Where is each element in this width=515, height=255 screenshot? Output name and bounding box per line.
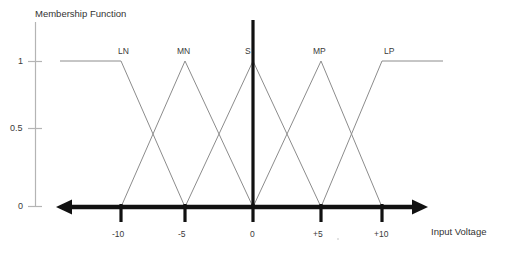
set-label-mn: MN [177, 47, 190, 56]
x-tick-label-plus-ten: +10 [374, 230, 388, 239]
x-tick-label-minus-five: -5 [178, 230, 186, 239]
x-tick-label-plus-five: +5 [313, 230, 323, 239]
x-axis-right-arrowhead [412, 200, 428, 215]
set-label-lp: LP [384, 47, 394, 56]
set-label-s: S [245, 47, 251, 56]
curve-mn [121, 61, 253, 207]
x-tick-label-minus-ten: -10 [112, 230, 124, 239]
scan-speck [337, 238, 339, 240]
x-axis-left-arrowhead [56, 200, 72, 215]
y-tick-label-zero: 0 [18, 202, 23, 211]
set-label-mp: MP [313, 47, 326, 56]
curve-ln [60, 61, 185, 207]
chart-canvas [0, 0, 515, 255]
y-tick-label-half: 0.5 [10, 124, 23, 133]
x-tick-label-zero: 0 [250, 230, 255, 239]
y-tick-label-one: 1 [18, 57, 23, 66]
x-axis-title: Input Voltage [431, 227, 486, 237]
membership-function-chart: Membership Function Input Voltage 1 0.5 … [0, 0, 515, 255]
set-label-ln: LN [118, 47, 129, 56]
curve-lp [321, 61, 443, 207]
y-axis-title: Membership Function [35, 9, 126, 19]
curve-mp [253, 61, 382, 207]
